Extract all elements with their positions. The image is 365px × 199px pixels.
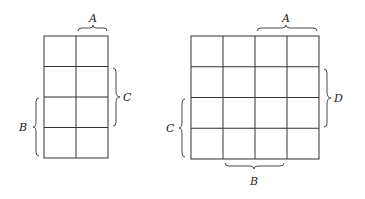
four-variable-map bbox=[191, 36, 319, 159]
brace-bottom-b bbox=[225, 163, 284, 169]
brace-left-c bbox=[179, 99, 185, 157]
brace-top-a bbox=[78, 25, 107, 31]
three-variable-map bbox=[44, 36, 108, 158]
label-c-right: C bbox=[166, 122, 175, 135]
brace-left-b bbox=[33, 98, 39, 156]
label-a-right: A bbox=[281, 12, 290, 25]
label-b-left: B bbox=[18, 121, 27, 134]
label-b-right: B bbox=[249, 175, 258, 188]
brace-top-a bbox=[257, 25, 317, 31]
label-a-left: A bbox=[88, 12, 97, 25]
kmap-diagram: A C B A D C B bbox=[0, 0, 365, 199]
brace-right-d bbox=[324, 69, 331, 127]
label-d-right: D bbox=[333, 92, 343, 105]
label-c-left: C bbox=[123, 91, 132, 104]
brace-right-c bbox=[113, 68, 120, 126]
